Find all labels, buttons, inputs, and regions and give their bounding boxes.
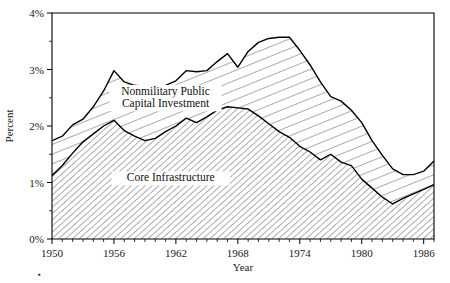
x-axis-title: Year <box>233 261 254 273</box>
x-tick-label: 1956 <box>103 247 126 259</box>
chart-figure: 0%1%2%3%4% 1950195619621968197419801986 … <box>0 0 450 283</box>
y-tick-label: 2% <box>29 120 44 132</box>
series-annotation: Capital Investment <box>122 97 210 110</box>
x-tick-label: 1980 <box>351 247 374 259</box>
y-axis-title: Percent <box>3 110 15 143</box>
footnote-mark: ▪ <box>38 270 41 279</box>
x-tick-label: 1962 <box>165 247 187 259</box>
area-chart: 0%1%2%3%4% 1950195619621968197419801986 … <box>0 0 450 283</box>
x-tick-label: 1968 <box>227 247 250 259</box>
y-tick-label: 0% <box>29 233 44 245</box>
y-tick-label: 1% <box>29 177 44 189</box>
series-annotation: Core Infrastructure <box>127 171 215 183</box>
x-tick-label: 1950 <box>41 247 64 259</box>
y-tick-label: 4% <box>29 7 44 19</box>
y-tick-label: 3% <box>29 64 44 76</box>
series-annotation: Nonmilitary Public <box>121 85 209 98</box>
x-tick-label: 1986 <box>413 247 436 259</box>
x-tick-label: 1974 <box>289 247 312 259</box>
